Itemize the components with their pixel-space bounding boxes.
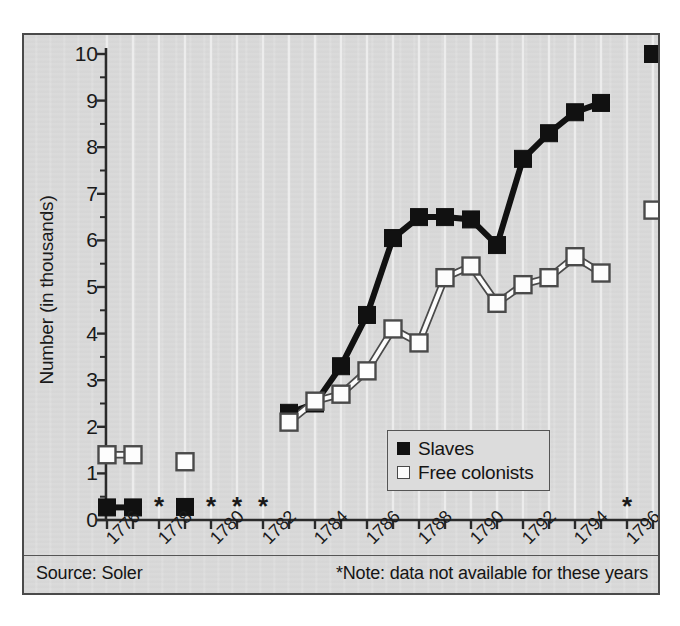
missing-data-asterisk: *: [258, 491, 269, 521]
availability-note: *Note: data not available for these year…: [336, 563, 648, 584]
data-point-slaves: [515, 150, 532, 167]
data-point-slaves: [645, 46, 661, 63]
data-point-slaves: [99, 499, 116, 516]
legend-swatch-open-square-icon: [397, 466, 410, 479]
data-point-free-colonists: [541, 269, 558, 286]
chart-footer: Source: Soler *Note: data not available …: [24, 555, 658, 593]
data-point-free-colonists: [333, 386, 350, 403]
data-point-slaves: [333, 358, 350, 375]
source-note: Source: Soler: [36, 563, 142, 584]
data-point-free-colonists: [99, 446, 116, 463]
data-point-free-colonists: [645, 202, 661, 219]
data-point-free-colonists: [463, 258, 480, 275]
data-point-slaves: [463, 211, 480, 228]
data-point-slaves: [541, 125, 558, 142]
chart-frame: Number (in thousands) 012345678910 *****…: [22, 33, 660, 595]
data-point-free-colonists: [177, 453, 194, 470]
data-point-slaves: [359, 306, 376, 323]
data-point-slaves: [411, 209, 428, 226]
data-point-free-colonists: [437, 269, 454, 286]
data-point-free-colonists: [515, 276, 532, 293]
data-point-slaves: [385, 230, 402, 247]
data-point-free-colonists: [567, 248, 584, 265]
data-point-free-colonists: [385, 320, 402, 337]
data-point-slaves: [593, 94, 610, 111]
chart-legend: Slaves Free colonists: [387, 430, 550, 491]
data-point-slaves: [489, 237, 506, 254]
data-point-free-colonists: [359, 362, 376, 379]
legend-item-free-colonists: Free colonists: [397, 460, 533, 484]
missing-data-asterisk: *: [206, 491, 217, 521]
legend-swatch-filled-square-icon: [397, 442, 410, 455]
data-point-free-colonists: [489, 295, 506, 312]
data-point-slaves: [567, 104, 584, 121]
data-point-slaves: [437, 209, 454, 226]
missing-data-asterisk: *: [622, 491, 633, 521]
missing-data-asterisk: *: [154, 491, 165, 521]
legend-label-slaves: Slaves: [418, 439, 474, 458]
legend-item-slaves: Slaves: [397, 436, 533, 460]
data-point-free-colonists: [281, 414, 298, 431]
data-point-free-colonists: [593, 265, 610, 282]
data-point-free-colonists: [307, 393, 324, 410]
legend-label-free-colonists: Free colonists: [418, 463, 533, 482]
data-point-free-colonists: [125, 446, 142, 463]
data-point-free-colonists: [411, 334, 428, 351]
